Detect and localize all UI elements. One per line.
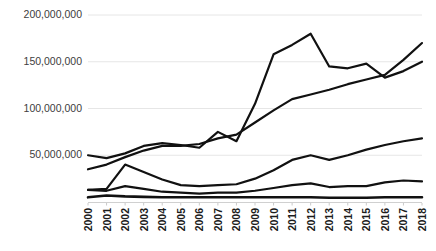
x-tick-label: 2012 xyxy=(305,208,317,248)
x-tick-label: 2015 xyxy=(360,208,372,248)
x-tick-2000: 2000 xyxy=(82,208,96,248)
series-lines xyxy=(88,34,422,198)
x-tick-2013: 2013 xyxy=(323,208,337,248)
x-tick-label: 2008 xyxy=(230,208,242,248)
x-tick-label: 2000 xyxy=(82,208,94,248)
x-tick-label: 2003 xyxy=(138,208,150,248)
x-tick-2006: 2006 xyxy=(193,208,207,248)
x-tick-2015: 2015 xyxy=(360,208,374,248)
x-tick-2016: 2016 xyxy=(379,208,393,248)
x-tick-2008: 2008 xyxy=(230,208,244,248)
x-tick-label: 2011 xyxy=(286,208,298,248)
line-chart: 50,000,000100,000,000150,000,000200,000,… xyxy=(0,0,436,251)
x-tick-label: 2004 xyxy=(156,208,168,248)
x-tick-label: 2006 xyxy=(193,208,205,248)
x-tick-2002: 2002 xyxy=(119,208,133,248)
x-tick-2009: 2009 xyxy=(249,208,263,248)
series-line-series-1 xyxy=(88,34,422,158)
x-tick-2007: 2007 xyxy=(212,208,226,248)
x-tick-label: 2017 xyxy=(397,208,409,248)
x-tick-label: 2009 xyxy=(249,208,261,248)
x-tick-2014: 2014 xyxy=(342,208,356,248)
x-tick-2003: 2003 xyxy=(138,208,152,248)
x-tick-2010: 2010 xyxy=(268,208,282,248)
x-tick-label: 2007 xyxy=(212,208,224,248)
gridlines xyxy=(88,15,422,155)
x-tick-2005: 2005 xyxy=(175,208,189,248)
x-tick-label: 2002 xyxy=(119,208,131,248)
x-tick-2017: 2017 xyxy=(397,208,411,248)
x-tick-2004: 2004 xyxy=(156,208,170,248)
x-tick-label: 2016 xyxy=(379,208,391,248)
x-tick-2001: 2001 xyxy=(101,208,115,248)
series-line-series-5 xyxy=(88,195,422,197)
x-tick-label: 2001 xyxy=(101,208,113,248)
series-line-series-4 xyxy=(88,181,422,194)
x-tick-label: 2013 xyxy=(323,208,335,248)
x-tick-2011: 2011 xyxy=(286,208,300,248)
series-line-series-3 xyxy=(88,138,422,189)
x-tick-label: 2005 xyxy=(175,208,187,248)
x-tick-label: 2018 xyxy=(416,208,428,248)
x-tick-label: 2010 xyxy=(268,208,280,248)
x-tick-2012: 2012 xyxy=(305,208,319,248)
x-tick-label: 2014 xyxy=(342,208,354,248)
x-tick-2018: 2018 xyxy=(416,208,430,248)
x-axis-tick-marks xyxy=(88,203,422,206)
